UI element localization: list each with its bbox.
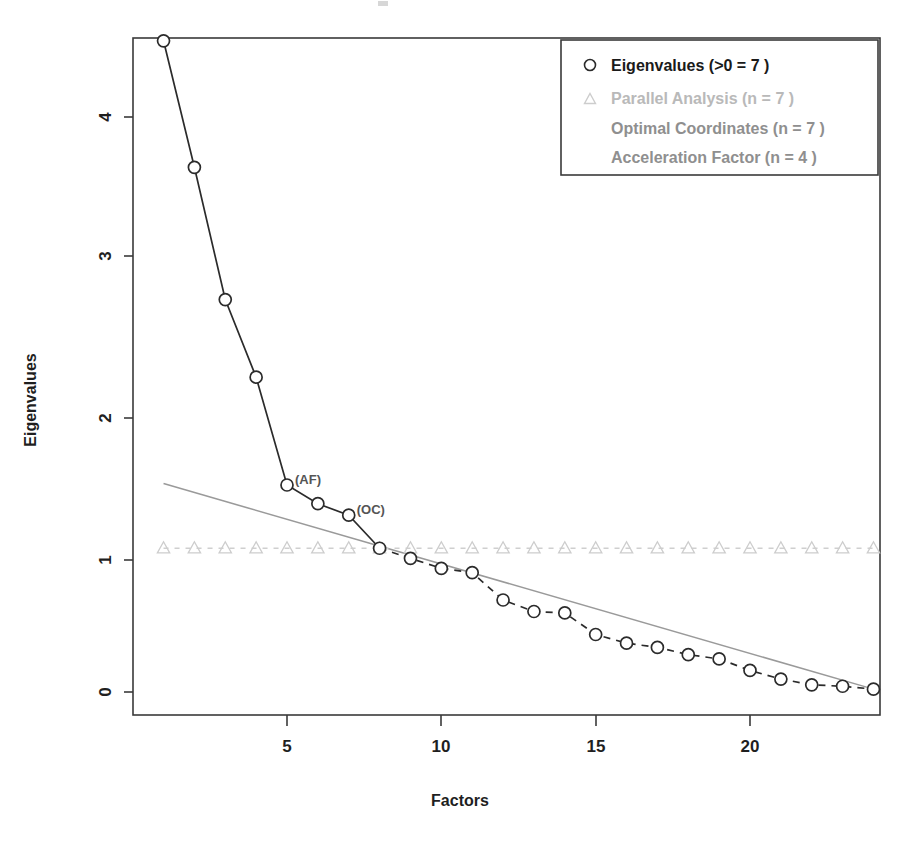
x-axis-ticks [287, 715, 750, 726]
eigenvalues-line-solid [164, 41, 380, 548]
annotation-af: (AF) [295, 472, 321, 487]
parallel-analysis-marker-11 [466, 542, 478, 553]
eigenvalue-marker-7 [343, 509, 355, 521]
eigenvalue-marker-1 [158, 35, 170, 47]
eigenvalue-marker-6 [312, 498, 324, 510]
eigenvalue-marker-18 [682, 649, 694, 661]
eigenvalue-marker-10 [435, 562, 447, 574]
parallel-analysis-marker-6 [312, 542, 324, 553]
eigenvalue-marker-24 [867, 683, 879, 695]
eigenvalue-marker-16 [621, 637, 633, 649]
optimal-coordinates-line [164, 484, 874, 690]
eigenvalue-marker-4 [250, 371, 262, 383]
parallel-analysis-marker-1 [157, 542, 169, 553]
eigenvalue-marker-22 [806, 679, 818, 691]
parallel-analysis-marker-20 [744, 542, 756, 553]
legend-label-optimal-coordinates: Optimal Coordinates (n = 7 ) [611, 120, 825, 137]
eigenvalue-marker-9 [404, 552, 416, 564]
y-axis-ticks [124, 117, 133, 692]
legend-label-eigenvalues: Eigenvalues (>0 = 7 ) [611, 57, 769, 74]
parallel-analysis-marker-24 [867, 542, 879, 553]
eigenvalue-marker-15 [590, 629, 602, 641]
parallel-analysis-marker-7 [343, 542, 355, 553]
parallel-analysis-marker-10 [435, 542, 447, 553]
parallel-analysis-marker-19 [713, 542, 725, 553]
parallel-analysis-marker-5 [281, 542, 293, 553]
y-axis-tick-labels: 4 3 2 1 0 [96, 112, 115, 697]
eigenvalue-marker-17 [651, 641, 663, 653]
x-tick-label-15: 15 [587, 737, 606, 756]
parallel-analysis-marker-13 [528, 542, 540, 553]
legend-label-acceleration-factor: Acceleration Factor (n = 4 ) [611, 149, 817, 166]
parallel-analysis-marker-4 [250, 542, 262, 553]
parallel-analysis-marker-16 [620, 542, 632, 553]
annotation-oc: (OC) [357, 502, 385, 517]
annotation-layer: (AF)(OC) [295, 472, 385, 517]
x-axis-tick-labels: 5 10 15 20 [282, 737, 759, 756]
scree-plot-figure: 4 3 2 1 0 5 10 15 20 Factors Eigenvalues… [0, 0, 920, 848]
parallel-analysis-marker-3 [219, 542, 231, 553]
eigenvalue-marker-20 [744, 664, 756, 676]
y-tick-label-2: 2 [96, 413, 115, 422]
x-tick-label-20: 20 [741, 737, 760, 756]
eigenvalue-marker-5 [281, 479, 293, 491]
eigenvalue-marker-2 [188, 161, 200, 173]
parallel-analysis-marker-18 [682, 542, 694, 553]
x-tick-label-5: 5 [282, 737, 291, 756]
y-tick-label-4: 4 [96, 112, 115, 122]
parallel-analysis-marker-2 [188, 542, 200, 553]
eigenvalue-marker-21 [775, 673, 787, 685]
y-axis-title: Eigenvalues [22, 353, 39, 446]
parallel-analysis-marker-21 [775, 542, 787, 553]
y-tick-label-3: 3 [96, 251, 115, 260]
eigenvalue-marker-11 [466, 567, 478, 579]
eigenvalue-marker-12 [497, 594, 509, 606]
parallel-analysis-marker-23 [836, 542, 848, 553]
eigenvalue-marker-14 [559, 607, 571, 619]
eigenvalue-marker-19 [713, 653, 725, 665]
parallel-analysis-marker-22 [806, 542, 818, 553]
eigenvalue-marker-23 [837, 680, 849, 692]
parallel-analysis-marker-14 [559, 542, 571, 553]
optimal-coordinates-series [164, 484, 874, 690]
parallel-analysis-marker-15 [589, 542, 601, 553]
eigenvalue-marker-3 [219, 294, 231, 306]
eigenvalue-marker-13 [528, 606, 540, 618]
legend: Eigenvalues (>0 = 7 ) Parallel Analysis … [561, 40, 878, 175]
y-tick-label-1: 1 [96, 555, 115, 564]
x-tick-label-10: 10 [432, 737, 451, 756]
parallel-analysis-marker-9 [404, 542, 416, 553]
x-axis-title: Factors [431, 792, 489, 809]
y-tick-label-0: 0 [96, 687, 115, 696]
parallel-analysis-marker-12 [497, 542, 509, 553]
legend-label-parallel-analysis: Parallel Analysis (n = 7 ) [611, 90, 794, 107]
scree-plot-canvas: 4 3 2 1 0 5 10 15 20 Factors Eigenvalues… [0, 0, 920, 848]
eigenvalue-marker-8 [374, 542, 386, 554]
parallel-analysis-marker-17 [651, 542, 663, 553]
parallel-analysis-series [157, 542, 879, 553]
